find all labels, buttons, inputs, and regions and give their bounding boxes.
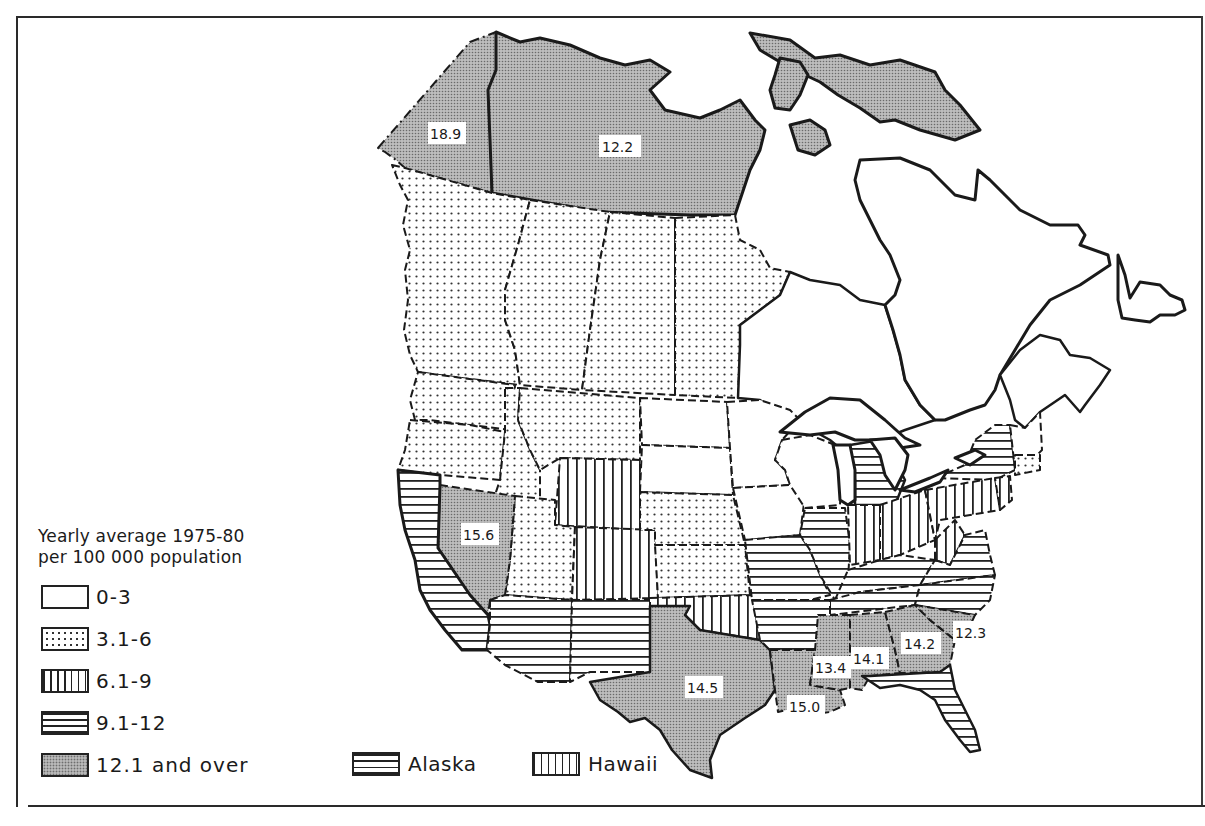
label-georgia: 14.2	[901, 632, 941, 654]
region-arctic-island-2	[770, 58, 808, 110]
region-newfoundland	[1118, 255, 1185, 322]
svg-text:14.1: 14.1	[853, 651, 884, 667]
region-arctic-island-3	[790, 120, 830, 155]
region-colorado	[572, 527, 658, 600]
svg-text:18.9: 18.9	[430, 126, 461, 142]
region-indiana	[848, 505, 880, 565]
legend-item-12-and-over: 12.1 and over	[41, 752, 248, 778]
region-kansas	[655, 545, 750, 598]
united-states	[398, 372, 1042, 778]
region-new-mexico	[570, 600, 650, 682]
inset-label-hawaii: Hawaii	[588, 752, 658, 776]
label-texas: 14.5	[685, 676, 723, 698]
label-northwest-territories: 12.2	[599, 135, 641, 157]
stipple-swatch-icon	[41, 753, 89, 777]
legend-item-6-9: 6.1-9	[41, 668, 153, 694]
choropleth-map: 18.9 12.2 15.6 14.5 15.0 13.4 14.1 14.2	[0, 0, 1205, 826]
label-nevada: 15.6	[461, 523, 499, 545]
label-yukon: 18.9	[428, 122, 466, 144]
legend-item-9-12: 9.1-12	[41, 710, 166, 736]
horizontal-lines-swatch-icon	[352, 752, 400, 776]
legend-title-line2: per 100 000 population	[38, 547, 338, 568]
inset-legend-hawaii: Hawaii	[532, 752, 658, 776]
dotted-swatch-icon	[41, 627, 89, 651]
legend-label: 0-3	[96, 585, 132, 609]
region-wyoming	[555, 458, 640, 530]
label-alabama: 14.1	[851, 647, 889, 669]
region-northwest-territories	[488, 32, 765, 215]
vertical-lines-swatch-icon	[41, 669, 89, 693]
label-louisiana: 15.0	[787, 695, 825, 717]
svg-text:12.3: 12.3	[955, 625, 986, 641]
svg-text:12.2: 12.2	[602, 139, 633, 155]
svg-text:15.6: 15.6	[463, 527, 494, 543]
region-arizona	[487, 595, 572, 682]
region-north-dakota	[640, 398, 730, 448]
arctic-islands	[750, 33, 980, 155]
vertical-lines-swatch-icon	[532, 752, 580, 776]
svg-text:14.5: 14.5	[687, 680, 718, 696]
legend-label: 3.1-6	[96, 627, 153, 651]
region-florida	[862, 665, 980, 752]
horizontal-lines-swatch-icon	[41, 711, 89, 735]
legend-label: 6.1-9	[96, 669, 153, 693]
map-legend: Yearly average 1975-80 per 100 000 popul…	[38, 526, 338, 568]
legend-item-0-3: 0-3	[41, 584, 132, 610]
region-south-dakota	[640, 445, 733, 495]
region-nebraska	[640, 492, 745, 545]
region-massachusetts-ct	[1015, 455, 1040, 475]
blank-swatch-icon	[41, 585, 89, 609]
svg-text:14.2: 14.2	[904, 636, 935, 652]
legend-item-3-6: 3.1-6	[41, 626, 153, 652]
legend-title-line1: Yearly average 1975-80	[38, 526, 338, 547]
inset-label-alaska: Alaska	[408, 752, 476, 776]
legend-label: 9.1-12	[96, 711, 166, 735]
legend-label: 12.1 and over	[96, 753, 248, 777]
svg-text:13.4: 13.4	[815, 660, 846, 676]
svg-text:15.0: 15.0	[789, 699, 820, 715]
label-south-carolina: 12.3	[953, 621, 993, 643]
label-mississippi: 13.4	[813, 656, 851, 678]
inset-legend-alaska: Alaska	[352, 752, 476, 776]
